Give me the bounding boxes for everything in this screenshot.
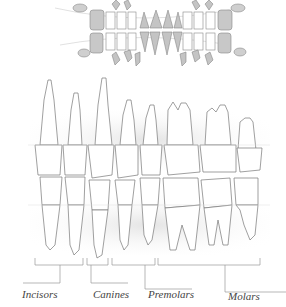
label-premolars: Premolars [148, 288, 194, 300]
dental-diagram [0, 0, 286, 307]
premolars-bracket [112, 258, 192, 289]
incisors-bracket [23, 258, 83, 283]
label-brackets [23, 258, 286, 292]
molars-bracket [158, 258, 286, 292]
label-incisors: Incisors [22, 288, 57, 300]
label-molars: Molars [228, 290, 260, 302]
top-dental-arch [55, 0, 246, 66]
label-canines: Canines [93, 288, 129, 300]
canines-bracket [87, 258, 128, 283]
